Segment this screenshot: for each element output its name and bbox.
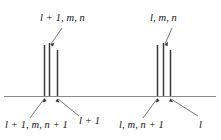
annotation-label-top-right: l, m, n: [150, 13, 177, 24]
annotation-label-bottom-right: l, m, n + 1: [119, 120, 164, 131]
arrowhead-bottom-left-2: [56, 98, 60, 102]
annotation-label-top-left: l + 1, m, n: [40, 13, 85, 24]
leader-line-top-right: [165, 28, 172, 44]
leader-line-top-left: [51, 28, 62, 44]
annotation-label-bottom-left-2: l + 1: [79, 116, 100, 127]
spectrum-figure: l + 1, m, n l, m, n l + 1, m, n + 1 l + …: [0, 0, 221, 140]
leader-line-bottom-right: [143, 99, 157, 118]
leader-line-bottom-left: [30, 99, 44, 118]
arrowhead-top-left: [50, 43, 54, 47]
leader-line-bottom-left-2: [58, 99, 79, 116]
annotation-label-bottom-right-2: l: [199, 120, 202, 131]
leader-line-bottom-right-2: [171, 99, 198, 116]
annotation-label-bottom-left: l + 1, m, n + 1: [5, 120, 68, 131]
